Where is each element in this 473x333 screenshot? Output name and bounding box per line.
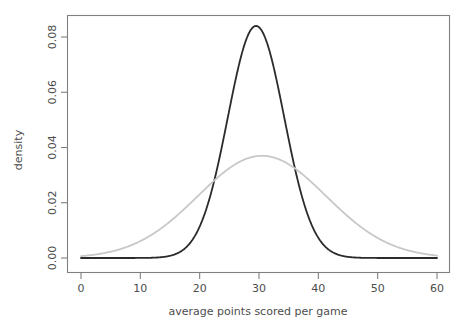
y-axis-ticks [61, 37, 68, 258]
y-axis-tick-labels: 0.000.020.040.060.08 [46, 25, 59, 271]
x-tick-label: 40 [311, 282, 325, 295]
curve-narrow-distribution [81, 26, 437, 258]
y-axis-title: density [12, 129, 25, 170]
y-tick-label: 0.08 [46, 25, 59, 50]
x-tick-label: 20 [193, 282, 207, 295]
x-tick-label: 50 [371, 282, 385, 295]
x-tick-label: 30 [252, 282, 266, 295]
curve-wide-distribution [81, 156, 437, 256]
density-curves [81, 26, 437, 258]
plot-frame [68, 16, 450, 273]
y-tick-label: 0.02 [46, 191, 59, 216]
y-tick-label: 0.00 [46, 246, 59, 271]
x-axis-title: average points scored per game [169, 305, 348, 318]
y-tick-label: 0.06 [46, 80, 59, 105]
x-tick-label: 10 [133, 282, 147, 295]
x-tick-label: 60 [430, 282, 444, 295]
x-tick-label: 0 [78, 282, 85, 295]
x-axis-ticks [81, 273, 437, 280]
x-axis-tick-labels: 0102030405060 [78, 282, 445, 295]
chart-container: 0.000.020.040.060.08 0102030405060 avera… [0, 0, 473, 333]
y-tick-label: 0.04 [46, 135, 59, 160]
density-plot: 0.000.020.040.060.08 0102030405060 avera… [0, 0, 473, 333]
